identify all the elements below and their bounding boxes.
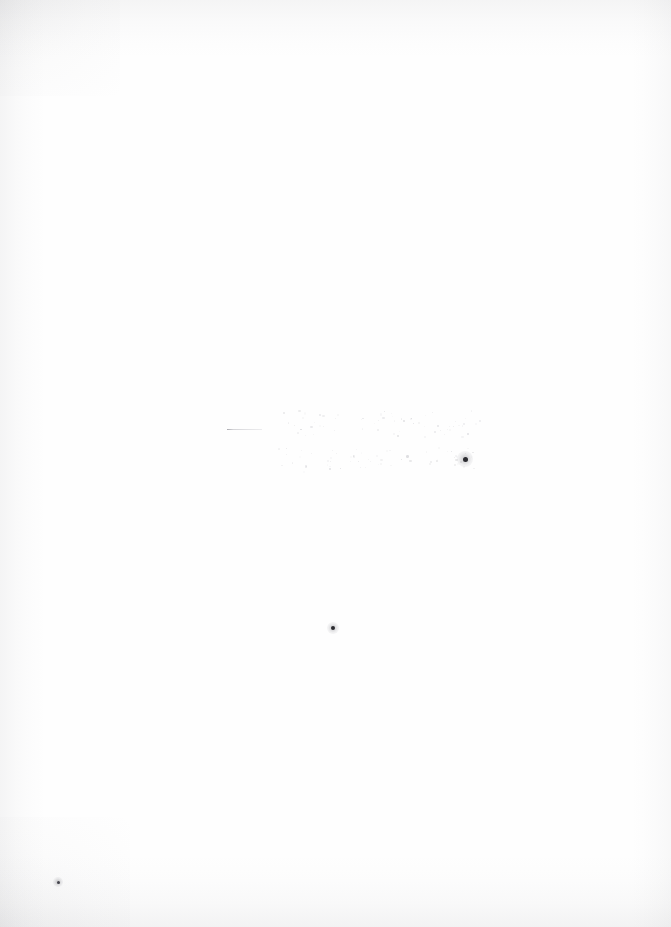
ink-speck xyxy=(331,626,335,630)
paper-surface xyxy=(0,0,671,927)
scan-vignette-right xyxy=(631,0,671,927)
scanned-page: Near-blank scanned sheet of paper xyxy=(0,0,671,927)
ink-speck xyxy=(57,881,60,884)
scan-vignette-corner-top-left xyxy=(0,0,120,96)
scan-vignette-left xyxy=(0,0,46,927)
horizontal-rule-mark xyxy=(227,429,262,430)
scan-vignette-corner-bottom-left xyxy=(0,817,130,927)
ink-speck xyxy=(463,457,468,462)
